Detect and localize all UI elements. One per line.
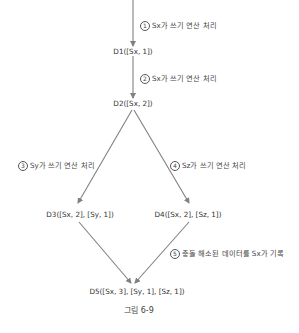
figure-caption: 그림 6-9 [124,307,154,315]
node-d4: D4([Sx, 2], [Sz, 1]) [155,211,222,218]
step-number-1: 1 [140,21,150,31]
edge-label-4: 4Sz가 쓰기 연산 처리 [170,161,246,171]
step-number-4: 4 [170,161,180,171]
node-d2: D2([Sx, 2]) [113,100,152,107]
edge-label-5: 5충돌 해소된 데이터를 Sx가 기록 [170,249,284,259]
edge-3-line [78,110,132,203]
node-d1: D1([Sx, 1]) [113,48,152,55]
edge-label-1: 1Sx가 쓰기 연산 처리 [140,21,217,31]
step-number-5: 5 [170,249,180,259]
step-number-3: 3 [18,161,28,171]
edge-label-2: 2Sx가 쓰기 연산 처리 [140,74,217,84]
node-d5: D5([Sx, 3], [Sy, 1], [Sz, 1]) [89,288,184,295]
edge-4-line [134,110,189,203]
node-d3: D3([Sx, 2], [Sy, 1]) [46,211,113,218]
step-number-2: 2 [140,74,150,84]
edge-label-3: 3Sy가 쓰기 연산 처리 [18,161,95,171]
edge-d3-d5-line [79,222,131,283]
